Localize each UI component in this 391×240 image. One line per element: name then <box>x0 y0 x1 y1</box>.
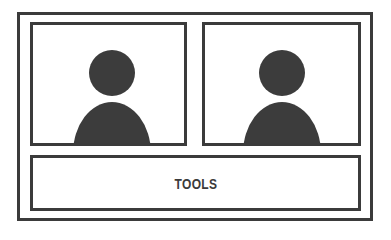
person-head-icon <box>89 50 135 96</box>
person-body-icon <box>243 102 321 146</box>
video-tile-participant-1[interactable] <box>30 22 187 146</box>
tools-label: TOOLS <box>174 175 217 192</box>
video-tile-participant-2[interactable] <box>202 22 361 146</box>
person-body-icon <box>73 102 151 146</box>
person-head-icon <box>259 50 305 96</box>
tools-toolbar[interactable]: TOOLS <box>30 155 361 211</box>
